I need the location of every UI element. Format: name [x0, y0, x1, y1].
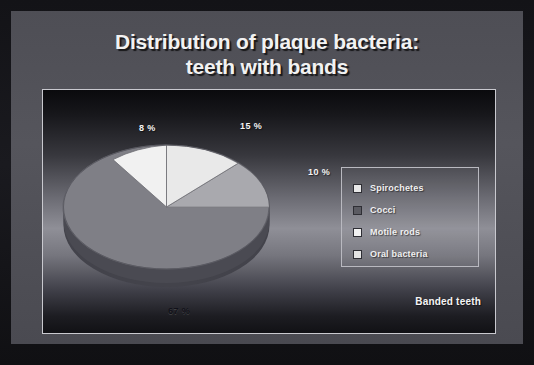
- legend-swatch-icon: [353, 228, 362, 237]
- legend-swatch-icon: [353, 250, 362, 259]
- pie-label-8-percent: 8 %: [139, 123, 156, 133]
- legend-swatch-icon: [353, 206, 362, 215]
- slide-root: Distribution of plaque bacteria: teeth w…: [0, 0, 534, 365]
- pie-label-67-percent: 67 %: [168, 306, 190, 316]
- page-title: Distribution of plaque bacteria: teeth w…: [11, 29, 523, 79]
- pie-chart[interactable]: [51, 102, 291, 322]
- legend-item-motile-rods[interactable]: Motile rods: [353, 221, 478, 243]
- pie-label-15-percent: 15 %: [240, 121, 262, 131]
- legend-label: Oral bacteria: [370, 249, 428, 259]
- legend-label: Cocci: [370, 205, 396, 215]
- legend-item-cocci[interactable]: Cocci: [353, 199, 478, 221]
- chart-container: 8 % 15 % 10 % 67 % Spirochetes Cocci Mot…: [42, 89, 496, 334]
- chart-legend: Spirochetes Cocci Motile rods Oral bacte…: [341, 167, 479, 267]
- legend-label: Motile rods: [370, 227, 420, 237]
- legend-item-oral-bacteria[interactable]: Oral bacteria: [353, 243, 478, 265]
- pie-label-10-percent: 10 %: [308, 167, 330, 177]
- legend-label: Spirochetes: [370, 183, 424, 193]
- slide-body: Distribution of plaque bacteria: teeth w…: [11, 11, 523, 344]
- chart-caption: Banded teeth: [415, 296, 481, 307]
- legend-item-spirochetes[interactable]: Spirochetes: [353, 177, 478, 199]
- legend-swatch-icon: [353, 184, 362, 193]
